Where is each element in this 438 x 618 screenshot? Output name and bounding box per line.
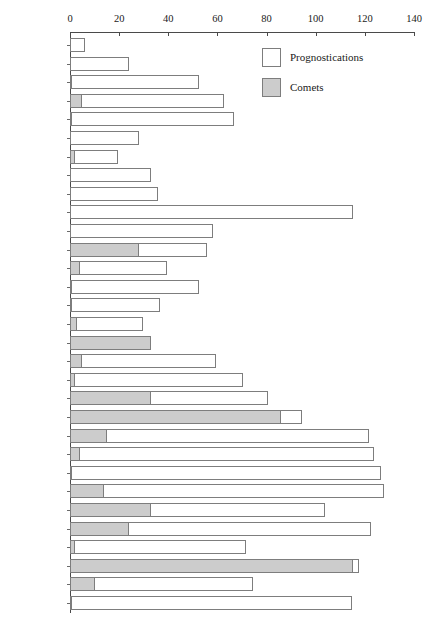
bar-segment-comets xyxy=(70,410,281,424)
stacked-bar xyxy=(70,354,414,368)
stacked-bar xyxy=(70,522,414,536)
bar-row xyxy=(0,129,438,148)
bar-row xyxy=(0,389,438,408)
bar-segment-prognostications xyxy=(70,57,129,71)
stacked-bar xyxy=(70,298,414,312)
legend-swatch-comets xyxy=(262,78,281,97)
chart-canvas: 020406080100120140 PrognosticationsComet… xyxy=(0,0,438,618)
bar-segment-prognostications xyxy=(138,243,207,257)
stacked-bar xyxy=(70,577,414,591)
bar-row xyxy=(0,371,438,390)
bar-segment-prognostications xyxy=(71,280,199,294)
bar-row xyxy=(0,278,438,297)
bar-row xyxy=(0,352,438,371)
bar-segment-prognostications xyxy=(70,205,353,219)
x-axis-line xyxy=(70,32,414,33)
legend-item: Comets xyxy=(262,78,412,97)
x-tick-label: 80 xyxy=(247,13,287,25)
stacked-bar xyxy=(70,466,414,480)
bar-row xyxy=(0,501,438,520)
bar-segment-comets xyxy=(70,243,139,257)
bar-segment-prognostications xyxy=(76,317,142,331)
bar-row xyxy=(0,259,438,278)
bar-segment-prognostications xyxy=(71,298,159,312)
bar-row xyxy=(0,241,438,260)
stacked-bar xyxy=(70,484,414,498)
x-tick-label: 40 xyxy=(148,13,188,25)
bar-segment-prognostications xyxy=(128,522,371,536)
bar-segment-prognostications xyxy=(106,429,369,443)
bar-segment-comets xyxy=(70,391,151,405)
bar-row xyxy=(0,464,438,483)
bar-row xyxy=(0,445,438,464)
stacked-bar xyxy=(70,243,414,257)
bar-row xyxy=(0,185,438,204)
bar-row xyxy=(0,538,438,557)
x-tick-label: 0 xyxy=(50,13,90,25)
bar-segment-prognostications xyxy=(79,261,167,275)
bar-segment-prognostications xyxy=(81,94,224,108)
legend-label: Prognostications xyxy=(290,48,363,67)
bar-row xyxy=(0,203,438,222)
legend-swatch-prognostications xyxy=(262,48,281,67)
stacked-bar xyxy=(70,596,414,610)
stacked-bar xyxy=(70,112,414,126)
bar-segment-prognostications xyxy=(70,131,139,145)
bar-segment-comets xyxy=(70,522,129,536)
bar-segment-prognostications xyxy=(71,596,351,610)
stacked-bar xyxy=(70,150,414,164)
stacked-bar xyxy=(70,336,414,350)
bar-segment-prognostications xyxy=(70,224,213,238)
stacked-bar xyxy=(70,280,414,294)
stacked-bar xyxy=(70,205,414,219)
stacked-bar xyxy=(70,410,414,424)
bar-row xyxy=(0,575,438,594)
bar-segment-prognostications xyxy=(79,447,374,461)
stacked-bar xyxy=(70,559,414,573)
stacked-bar xyxy=(70,391,414,405)
stacked-bar xyxy=(70,503,414,517)
bar-segment-prognostications xyxy=(280,410,302,424)
bar-segment-comets xyxy=(70,429,107,443)
bar-segment-comets xyxy=(70,336,151,350)
bar-row xyxy=(0,148,438,167)
bar-segment-prognostications xyxy=(74,150,118,164)
bar-row xyxy=(0,520,438,539)
x-tick-label: 100 xyxy=(296,13,336,25)
stacked-bar xyxy=(70,261,414,275)
stacked-bar xyxy=(70,317,414,331)
stacked-bar xyxy=(70,168,414,182)
legend-label: Comets xyxy=(290,78,324,97)
bar-segment-prognostications xyxy=(352,559,359,573)
x-tick-label: 120 xyxy=(345,13,385,25)
bar-row xyxy=(0,222,438,241)
bar-segment-prognostications xyxy=(94,577,254,591)
bar-row xyxy=(0,557,438,576)
bar-segment-prognostications xyxy=(71,112,233,126)
stacked-bar xyxy=(70,373,414,387)
bar-segment-prognostications xyxy=(70,168,151,182)
bar-segment-prognostications xyxy=(70,187,158,201)
x-tick-label: 140 xyxy=(394,13,434,25)
bar-row xyxy=(0,166,438,185)
bar-segment-comets xyxy=(70,559,353,573)
stacked-bar xyxy=(70,187,414,201)
bar-segment-prognostications xyxy=(74,540,246,554)
bar-segment-prognostications xyxy=(74,373,244,387)
bar-segment-comets xyxy=(70,484,104,498)
bar-segment-comets xyxy=(70,503,151,517)
bar-row xyxy=(0,427,438,446)
bar-segment-prognostications xyxy=(70,38,85,52)
legend-item: Prognostications xyxy=(262,48,412,67)
bar-segment-prognostications xyxy=(71,466,381,480)
chart-legend: PrognosticationsComets xyxy=(262,48,412,108)
bar-segment-prognostications xyxy=(81,354,216,368)
stacked-bar xyxy=(70,540,414,554)
stacked-bar xyxy=(70,447,414,461)
bar-row xyxy=(0,110,438,129)
bar-segment-prognostications xyxy=(150,503,324,517)
bar-row xyxy=(0,482,438,501)
bar-row xyxy=(0,408,438,427)
bar-segment-comets xyxy=(70,577,95,591)
bar-row xyxy=(0,296,438,315)
